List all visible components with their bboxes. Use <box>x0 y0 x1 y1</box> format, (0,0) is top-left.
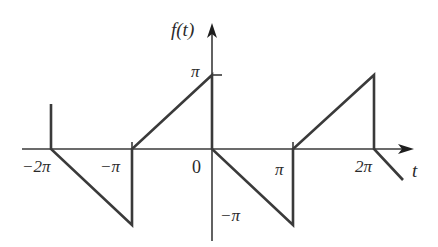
x-tick-2pi: 2π <box>355 158 372 175</box>
x-tick-minus-2pi: −2π <box>22 158 51 175</box>
x-tick-zero: 0 <box>192 158 201 176</box>
y-tick-pi: π <box>191 63 200 80</box>
y-axis-label: f(t) <box>171 20 194 39</box>
waveform-diagram <box>0 0 438 247</box>
x-axis-label: t <box>412 161 417 180</box>
x-tick-minus-pi: −π <box>100 158 120 175</box>
waveform-curve <box>51 75 403 225</box>
y-tick-minus-pi: −π <box>220 207 240 224</box>
x-tick-pi: π <box>275 161 284 178</box>
